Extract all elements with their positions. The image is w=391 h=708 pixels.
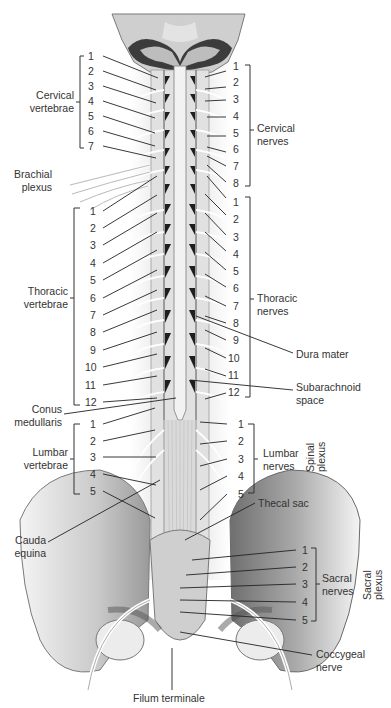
coccygeal-nerve-label: Coccygeal nerve xyxy=(316,648,365,673)
thoracic-vertebra-1: 1 xyxy=(90,205,96,217)
thoracic-vertebra-8: 8 xyxy=(90,326,96,338)
cervical-vertebra-5: 5 xyxy=(88,110,94,122)
thoracic-vertebra-9: 9 xyxy=(90,344,96,356)
thoracic-nerves-label: Thoracic nerves xyxy=(257,292,297,317)
sacral-plexus-label: Sacral plexus xyxy=(362,570,384,600)
thoracic-vertebrae-label: Thoracic vertebrae xyxy=(16,285,68,310)
dura-mater-label: Dura mater xyxy=(296,348,349,360)
sacral-nerve-4: 4 xyxy=(302,596,308,608)
sacral-nerve-3: 3 xyxy=(302,578,308,590)
cervical-nerve-2: 2 xyxy=(233,76,239,88)
thoracic-vertebra-10: 10 xyxy=(85,361,97,373)
conus-medullaris-label: Conus medullaris xyxy=(6,403,62,428)
thoracic-nerve-6: 6 xyxy=(233,282,239,294)
thoracic-nerve-3: 3 xyxy=(233,231,239,243)
lumbar-nerve-4: 4 xyxy=(238,470,244,482)
cervical-nerves-label: Cervical nerves xyxy=(257,122,295,147)
thoracic-nerve-4: 4 xyxy=(233,248,239,260)
cervical-nerve-5: 5 xyxy=(233,127,239,139)
thoracic-vertebra-12: 12 xyxy=(85,396,97,408)
cervical-vertebra-2: 2 xyxy=(88,65,94,77)
sacral-nerve-5: 5 xyxy=(302,614,308,626)
subarachnoid-space-label: Subarachnoid space xyxy=(296,381,361,406)
cervical-vertebra-7: 7 xyxy=(88,140,94,152)
lumbar-nerves-label: Lumbar nerves xyxy=(263,447,299,472)
lumbar-vertebra-4: 4 xyxy=(90,468,96,480)
thoracic-nerve-8: 8 xyxy=(233,317,239,329)
cervical-nerve-8: 8 xyxy=(233,177,239,189)
thoracic-nerve-5: 5 xyxy=(233,265,239,277)
thoracic-vertebra-7: 7 xyxy=(90,309,96,321)
cervical-vertebrae-label: Cervical vertebrae xyxy=(22,89,74,114)
lumbar-vertebra-2: 2 xyxy=(90,435,96,447)
thoracic-nerve-1: 1 xyxy=(233,196,239,208)
cervical-nerve-1: 1 xyxy=(233,60,239,72)
thoracic-nerve-7: 7 xyxy=(233,300,239,312)
lumbar-nerve-2: 2 xyxy=(238,435,244,447)
lumbar-vertebra-3: 3 xyxy=(90,451,96,463)
sacral-nerve-2: 2 xyxy=(302,561,308,573)
cervical-vertebra-3: 3 xyxy=(88,80,94,92)
cervical-nerve-6: 6 xyxy=(233,143,239,155)
thoracic-vertebra-5: 5 xyxy=(90,274,96,286)
lumbar-vertebrae-label: Lumbar vertebrae xyxy=(16,446,68,471)
thoracic-vertebra-11: 11 xyxy=(85,379,96,391)
spinal-plexus-label: Spinal plexus xyxy=(305,442,327,472)
cervical-vertebra-1: 1 xyxy=(88,50,94,62)
cervical-vertebra-4: 4 xyxy=(88,95,94,107)
cervical-nerve-3: 3 xyxy=(233,93,239,105)
thoracic-vertebra-3: 3 xyxy=(90,239,96,251)
thoracic-nerve-10: 10 xyxy=(228,352,240,364)
spinal-cord xyxy=(174,66,186,420)
lumbar-nerve-1: 1 xyxy=(238,418,244,430)
filum-terminale-label: Filum terminale xyxy=(133,692,205,704)
brachial-plexus-label: Brachial plexus xyxy=(6,168,52,193)
thecal-sac-label: Thecal sac xyxy=(258,497,309,509)
cauda-equina-label: Cauda equina xyxy=(6,534,46,559)
thoracic-vertebra-6: 6 xyxy=(90,292,96,304)
thoracic-nerve-12: 12 xyxy=(228,386,240,398)
lumbar-nerve-5: 5 xyxy=(238,488,244,500)
cervical-nerve-7: 7 xyxy=(233,160,239,172)
thoracic-nerve-9: 9 xyxy=(233,334,239,346)
thoracic-vertebra-4: 4 xyxy=(90,257,96,269)
thoracic-nerve-2: 2 xyxy=(233,213,239,225)
thoracic-nerve-11: 11 xyxy=(228,369,239,381)
cervical-nerve-4: 4 xyxy=(233,110,239,122)
sacral-nerve-1: 1 xyxy=(302,544,308,556)
thoracic-vertebra-2: 2 xyxy=(90,222,96,234)
cervical-vertebra-6: 6 xyxy=(88,125,94,137)
lumbar-vertebra-5: 5 xyxy=(90,485,96,497)
lumbar-nerve-3: 3 xyxy=(238,453,244,465)
spinal-cord-diagram: 1 2 3 4 5 6 7 Cervical vertebrae Brachia… xyxy=(0,0,391,708)
sacral-nerves-label: Sacral nerves xyxy=(322,572,354,597)
lumbar-vertebra-1: 1 xyxy=(90,418,96,430)
